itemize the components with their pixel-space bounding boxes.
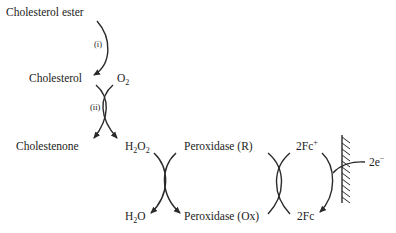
o2-label: O2 (117, 72, 129, 87)
ferrocenium-label: 2Fc+ (296, 138, 318, 152)
step-ii-label: (ii) (90, 102, 101, 112)
electrons-label: 2e− (369, 154, 385, 168)
peroxidase-oxidized-label: Peroxidase (Ox) (184, 210, 259, 223)
h2o2-label: H2O2 (125, 140, 150, 155)
electron-input-curve (333, 162, 365, 173)
h2o-label: H2O (125, 210, 146, 225)
peroxidase-r-to-ox-arrow (164, 153, 180, 213)
peroxidase-ox-to-r-curve (268, 153, 282, 214)
step-i-label: (i) (94, 39, 102, 49)
peroxidase-reduced-label: Peroxidase (R) (184, 140, 253, 153)
reaction-scheme: Cholesterol ester (i) Cholesterol O2 (ii… (0, 0, 396, 233)
cholesterol-ester-label: Cholesterol ester (6, 6, 84, 18)
ferrocene-label: 2Fc (297, 210, 314, 222)
cholestenone-label: Cholestenone (16, 140, 79, 152)
electrode-icon (342, 135, 350, 203)
fc-to-fc-plus-curve (277, 153, 291, 214)
cholesterol-label: Cholesterol (29, 72, 82, 84)
fc-plus-to-fc-arrow (320, 153, 333, 212)
h2o2-to-h2o-arrow (151, 153, 166, 213)
o2-to-h2o2-arrow (103, 85, 117, 138)
